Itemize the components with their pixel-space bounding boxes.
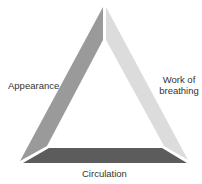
- pediatric-assessment-triangle: Appearance Work of breathing Circulation: [0, 0, 202, 184]
- work-of-breathing-label: Work of breathing: [158, 74, 200, 96]
- work-of-breathing-label-line1: Work of: [158, 74, 200, 85]
- appearance-label: Appearance: [8, 80, 59, 91]
- circulation-side: [23, 148, 187, 163]
- circulation-label: Circulation: [82, 168, 127, 179]
- work-of-breathing-label-line2: breathing: [158, 85, 200, 96]
